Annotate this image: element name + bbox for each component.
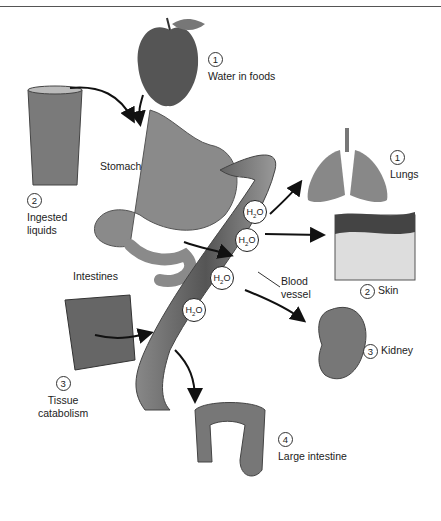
h2o-molecule-2: H2O (235, 228, 259, 252)
large-intestine-icon (195, 403, 265, 476)
number-badge: 1 (208, 52, 223, 67)
lungs-icon (308, 128, 388, 202)
number-badge: 4 (278, 432, 293, 447)
number-badge: 2 (27, 193, 42, 208)
label-kidney: 3Kidney (363, 344, 413, 359)
apple-icon (138, 18, 205, 106)
kidney-icon (319, 307, 366, 378)
label-large-intestine: 4 Large intestine (278, 432, 347, 463)
h2o-molecule-4: H2O (182, 298, 206, 322)
glass-of-water-icon (28, 86, 82, 185)
label-lungs: 1 Lungs (390, 150, 419, 181)
number-badge: 3 (363, 344, 378, 359)
label-stomach: Stomach (100, 160, 141, 173)
number-badge: 3 (56, 376, 71, 391)
h2o-molecule-1: H2O (243, 200, 267, 224)
label-tissue-catabolism: 3 Tissue catabolism (38, 376, 88, 420)
number-badge: 2 (360, 284, 375, 299)
label-blood-vessel: Blood vessel (281, 275, 311, 301)
h2o-molecule-3: H2O (210, 266, 234, 290)
tissue-icon (65, 295, 135, 370)
label-ingested-liquids: 2 Ingested liquids (27, 193, 67, 237)
label-water-in-foods: 1 Water in foods (208, 52, 275, 83)
label-intestines: Intestines (73, 270, 118, 283)
number-badge: 1 (390, 150, 405, 165)
label-skin: 2Skin (360, 284, 398, 299)
skin-icon (335, 212, 415, 280)
